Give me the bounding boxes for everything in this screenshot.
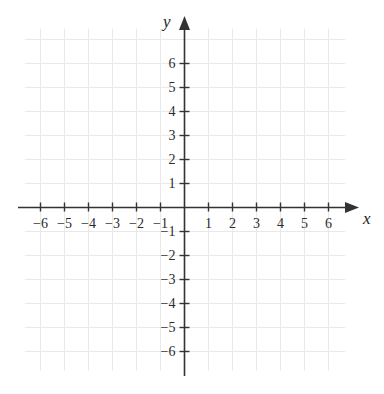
x-tick-label: 1 [205, 217, 212, 231]
x-axis-label: x [363, 210, 371, 227]
x-tick-label: −6 [33, 217, 48, 231]
x-tick-label: −2 [129, 217, 144, 231]
x-tick-label: 2 [229, 217, 236, 231]
x-tick-label: −4 [81, 217, 96, 231]
y-tick-label: −4 [161, 297, 176, 311]
x-tick-label: 4 [277, 217, 284, 231]
y-tick-label: 2 [169, 153, 176, 167]
y-tick-label: 6 [169, 57, 176, 71]
y-tick-label: −2 [161, 249, 176, 263]
y-tick-label: −3 [161, 273, 176, 287]
y-tick-label: −6 [161, 345, 176, 359]
x-tick-label: 3 [253, 217, 260, 231]
y-tick-label: 5 [169, 81, 176, 95]
y-tick-label: −5 [161, 321, 176, 335]
x-tick-label: −3 [105, 217, 120, 231]
y-tick-label: −1 [161, 225, 176, 239]
coordinate-plane-figure: −6−5−4−3−2−1123456 654321−1−2−3−4−5−6 x … [0, 0, 384, 394]
y-tick-label: 4 [169, 105, 176, 119]
y-axis-arrowhead [179, 16, 190, 30]
x-axis-arrowhead [345, 202, 359, 213]
x-tick-label: 5 [301, 217, 308, 231]
y-tick-label: 1 [169, 177, 176, 191]
x-tick-label: −5 [57, 217, 72, 231]
axis-lines [18, 16, 359, 376]
y-tick-label: 3 [169, 129, 176, 143]
x-tick-label: 6 [325, 217, 332, 231]
cartesian-grid-svg [0, 0, 384, 394]
y-axis-label: y [163, 13, 171, 30]
